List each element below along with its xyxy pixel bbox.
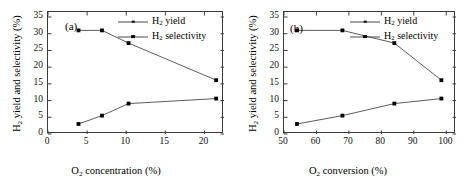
- y-tick-label: 10: [270, 95, 280, 105]
- legend-marker-h2-selectivity-icon: [118, 32, 148, 42]
- x-tick-label: 20: [199, 137, 209, 147]
- data-point-marker: [439, 78, 443, 82]
- legend-entry-h2-yield: H2 yield: [350, 14, 438, 29]
- x-tick-label: 0: [45, 137, 50, 147]
- data-point-marker: [341, 28, 345, 32]
- legend-label-h2-selectivity: H2 selectivity: [384, 31, 438, 42]
- y-axis-title-b: H2 yield and selectivity (%): [247, 15, 260, 132]
- x-tick-label: 5: [84, 137, 89, 147]
- x-tick-label: 50: [278, 137, 288, 147]
- y-tick-label: 10: [34, 95, 44, 105]
- panel-letter-a: (a): [65, 20, 77, 32]
- legend-marker-h2-selectivity-icon: [350, 32, 380, 42]
- legend-marker-h2-yield-icon: [350, 17, 380, 27]
- x-tick-label: 90: [408, 137, 418, 147]
- y-tick-label: 30: [270, 28, 280, 38]
- x-axis-title-a: O2 concentration (%): [0, 165, 232, 178]
- x-tick-label: 70: [343, 137, 353, 147]
- x-tick-label: 60: [311, 137, 321, 147]
- y-tick-label: 20: [270, 61, 280, 71]
- x-tick-label: 10: [120, 137, 130, 147]
- data-point-marker: [77, 122, 81, 126]
- panel-letter-b: (b): [290, 22, 303, 34]
- y-tick-label: 25: [270, 45, 280, 55]
- y-tick-label: 30: [34, 28, 44, 38]
- legend-label-h2-selectivity: H2 selectivity: [152, 31, 206, 42]
- data-point-marker: [127, 102, 131, 106]
- figure-two-panel-chart: 0510152025303505101520 (a) H2 yield and …: [0, 0, 464, 183]
- data-point-marker: [341, 114, 345, 118]
- y-tick-label: 35: [270, 11, 280, 21]
- data-point-marker: [100, 28, 104, 32]
- legend-a: H2 yield H2 selectivity: [118, 14, 206, 44]
- legend-marker-h2-yield-icon: [118, 17, 148, 27]
- x-tick-label: 80: [376, 137, 386, 147]
- data-point-marker: [100, 114, 104, 118]
- legend-entry-h2-selectivity: H2 selectivity: [350, 29, 438, 44]
- legend-entry-h2-selectivity: H2 selectivity: [118, 29, 206, 44]
- data-point-marker: [392, 102, 396, 106]
- data-point-marker: [214, 78, 218, 82]
- chart-panel-b: 051015202530355060708090100 (b) H2 yield…: [232, 0, 464, 183]
- y-tick-label: 20: [34, 61, 44, 71]
- y-tick-label: 0: [38, 128, 43, 138]
- x-axis-title-b: O2 conversion (%): [232, 165, 464, 178]
- series-line-h2-yield: [79, 99, 217, 124]
- y-tick-label: 5: [274, 112, 279, 122]
- data-point-marker: [214, 97, 218, 101]
- y-tick-label: 5: [38, 112, 43, 122]
- x-tick-label: 15: [160, 137, 170, 147]
- y-tick-label: 15: [270, 78, 280, 88]
- legend-b: H2 yield H2 selectivity: [350, 14, 438, 44]
- y-axis-title-a: H2 yield and selectivity (%): [11, 15, 24, 132]
- y-tick-label: 25: [34, 45, 44, 55]
- legend-label-h2-yield: H2 yield: [384, 16, 417, 27]
- chart-panel-a: 0510152025303505101520 (a) H2 yield and …: [0, 0, 232, 183]
- x-tick-label: 100: [438, 137, 452, 147]
- data-point-marker: [295, 122, 299, 126]
- legend-label-h2-yield: H2 yield: [152, 16, 185, 27]
- y-tick-label: 35: [34, 11, 44, 21]
- series-line-h2-yield: [297, 99, 441, 124]
- y-tick-label: 15: [34, 78, 44, 88]
- legend-entry-h2-yield: H2 yield: [118, 14, 206, 29]
- data-point-marker: [439, 97, 443, 101]
